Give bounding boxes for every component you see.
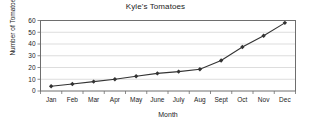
data-point-marker — [134, 74, 138, 78]
x-tick-label: Aug — [194, 96, 206, 104]
data-point-marker — [70, 82, 74, 86]
y-tick-label: 20 — [28, 64, 36, 71]
plot-area: 0102030405060 JanFebMarAprMayJuneJulyAug… — [0, 0, 311, 125]
x-tick-label: July — [173, 96, 185, 104]
x-tick-label: Apr — [110, 96, 121, 104]
x-tick-label: May — [130, 96, 143, 104]
data-point-marker — [155, 71, 159, 75]
x-tick-label: Mar — [88, 96, 100, 103]
y-tick-label: 30 — [28, 52, 36, 59]
y-tick-label: 50 — [28, 29, 36, 36]
data-point-marker — [91, 79, 95, 83]
x-axis-ticks: JanFebMarAprMayJuneJulyAugSeptOctNovDec — [41, 91, 296, 104]
x-tick-label: June — [150, 96, 164, 103]
gridlines — [41, 21, 296, 80]
x-tick-label: Nov — [258, 96, 270, 103]
data-point-marker — [49, 84, 53, 88]
y-tick-label: 40 — [28, 40, 36, 47]
y-tick-label: 10 — [28, 76, 36, 83]
y-tick-label: 60 — [28, 17, 36, 24]
x-tick-label: Feb — [67, 96, 79, 103]
x-axis-title: Month — [40, 111, 296, 118]
data-point-marker — [113, 77, 117, 81]
x-tick-label: Oct — [237, 96, 247, 103]
chart-figure: Kyle's Tomatoes Number of Tomatoes 01020… — [0, 0, 311, 125]
data-point-markers — [49, 21, 287, 89]
data-point-marker — [176, 69, 180, 73]
x-tick-label: Sept — [214, 96, 228, 104]
y-tick-label: 0 — [32, 87, 36, 94]
y-axis-ticks: 0102030405060 — [28, 17, 40, 95]
x-tick-label: Jan — [46, 96, 57, 103]
x-tick-label: Dec — [279, 96, 291, 103]
